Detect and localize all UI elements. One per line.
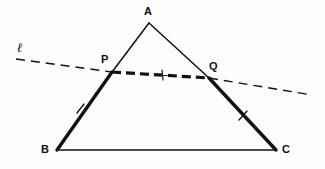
line-l-left-ray xyxy=(16,59,112,72)
vertex-label-b: B xyxy=(41,144,49,155)
geometry-figure: A B C P Q ℓ xyxy=(0,0,325,169)
point-label-p: P xyxy=(101,54,109,65)
segment-aq xyxy=(149,23,209,78)
line-label-l: ℓ xyxy=(17,41,23,54)
segment-qc xyxy=(209,78,276,150)
point-label-q: Q xyxy=(209,61,218,72)
vertex-label-a: A xyxy=(144,6,152,17)
tick-mark-pq-icon xyxy=(158,70,167,80)
segment-pb xyxy=(57,72,112,150)
vertex-label-c: C xyxy=(282,144,290,155)
segment-ap xyxy=(112,23,149,72)
